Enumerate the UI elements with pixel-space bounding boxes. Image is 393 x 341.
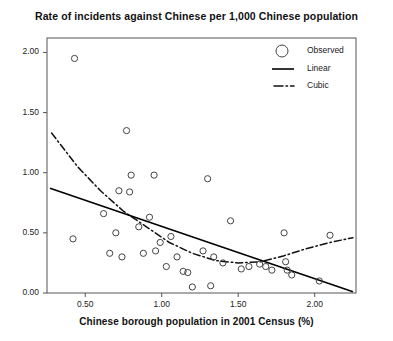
x-axis-title: Chinese borough population in 2001 Censu… bbox=[0, 316, 393, 327]
chart-figure: Rate of incidents against Chinese per 1,… bbox=[0, 0, 393, 341]
y-tick-label: 1.00 bbox=[5, 168, 39, 177]
legend-label-observed: Observed bbox=[307, 46, 344, 55]
y-tick-label: 0.50 bbox=[5, 228, 39, 237]
legend-label-cubic: Cubic bbox=[307, 81, 329, 90]
x-tick-label: 1.50 bbox=[218, 300, 258, 309]
cubic-trend-line bbox=[52, 133, 353, 263]
legend-label-linear: Linear bbox=[307, 64, 331, 73]
x-tick-label: 0.50 bbox=[65, 300, 105, 309]
legend-markers bbox=[272, 45, 294, 86]
y-tick-label: 2.00 bbox=[5, 47, 39, 56]
x-tick-label: 2.00 bbox=[295, 300, 335, 309]
plot-frame bbox=[47, 38, 356, 293]
x-tick-label: 1.00 bbox=[142, 300, 182, 309]
observed-data-points bbox=[70, 55, 333, 290]
linear-trend-line bbox=[50, 188, 353, 291]
y-tick-label: 1.50 bbox=[5, 108, 39, 117]
axis-ticks bbox=[43, 52, 315, 297]
y-tick-label: 0.00 bbox=[5, 288, 39, 297]
